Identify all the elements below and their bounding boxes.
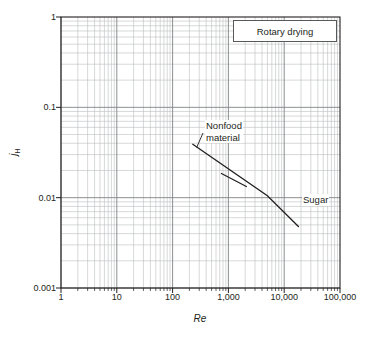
y-tick-label-0.01: 0.01 — [18, 193, 56, 203]
annotation-nonfood-line2: material — [206, 132, 242, 144]
x-tick-label-100000: 100,000 — [324, 292, 357, 302]
x-tick-label-10: 10 — [112, 292, 122, 302]
y-axis-label-main: j — [8, 153, 19, 155]
x-tick-label-10000: 10,000 — [270, 292, 298, 302]
curve-nonfood-material — [221, 174, 246, 187]
x-tick-label-1000: 1,000 — [217, 292, 240, 302]
grid-minor — [61, 17, 340, 288]
log-log-plot — [0, 0, 379, 342]
annotation-nonfood-material: Nonfood material — [205, 120, 243, 143]
plot-frame — [61, 17, 340, 288]
y-axis-label-sub: H — [14, 148, 21, 153]
x-axis-label: Re — [194, 313, 207, 324]
legend-box-label: Rotary drying — [257, 26, 314, 37]
y-tick-label-1: 1 — [18, 12, 56, 22]
y-tick-label-0.1: 0.1 — [18, 102, 56, 112]
annotation-sugar: Sugar — [302, 194, 329, 206]
grid-major — [61, 17, 340, 288]
chart-figure: 1 0.1 0.01 0.001 1 10 100 1,000 10,000 1… — [0, 0, 379, 342]
x-tick-label-1: 1 — [58, 292, 63, 302]
y-axis-label: jH — [8, 148, 21, 155]
annotation-leader-line — [197, 133, 203, 147]
x-tick-label-100: 100 — [165, 292, 180, 302]
annotation-nonfood-line1: Nonfood — [206, 120, 242, 132]
y-tick-label-0.001: 0.001 — [18, 283, 56, 293]
axis-ticks — [56, 17, 340, 293]
data-curves — [193, 144, 299, 226]
